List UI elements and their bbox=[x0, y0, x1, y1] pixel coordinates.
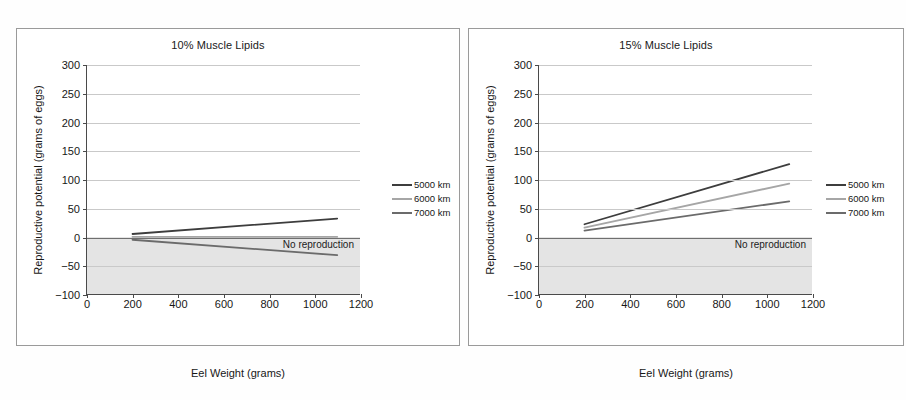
y-tick-mark-left-100 bbox=[83, 180, 87, 181]
y-tick-mark-right-200 bbox=[535, 123, 539, 124]
y-tick-label-left--100: −100 bbox=[55, 289, 80, 301]
gridline-right-200 bbox=[539, 123, 812, 124]
y-tick-mark-right-50 bbox=[535, 209, 539, 210]
x-tick-label-left-400: 400 bbox=[169, 298, 187, 310]
x-tick-label-right-1000: 1000 bbox=[755, 298, 779, 310]
y-tick-mark-right-100 bbox=[535, 180, 539, 181]
y-tick-label-left-300: 300 bbox=[62, 59, 80, 71]
gridline-left-150 bbox=[87, 151, 360, 152]
y-tick-mark-right-150 bbox=[535, 151, 539, 152]
y-axis-title-right-text: Reproductive potential (grams of eggs) bbox=[484, 85, 496, 275]
legend-swatch-icon-right-1 bbox=[826, 198, 846, 200]
legend-swatch-icon-right-0 bbox=[826, 184, 846, 186]
y-tick-mark-left-250 bbox=[83, 94, 87, 95]
y-tick-label-left-0: 0 bbox=[74, 232, 80, 244]
chart-title-left: 10% Muscle Lipids bbox=[17, 39, 459, 51]
x-axis-title-left: Eel Weight (grams) bbox=[17, 367, 459, 379]
gridline-left-50 bbox=[87, 209, 360, 210]
legend-label-left-1: 6000 km bbox=[414, 194, 450, 204]
y-tick-mark-right-300 bbox=[535, 65, 539, 66]
legend-item-right-6000-km[interactable]: 6000 km bbox=[826, 192, 884, 206]
y-tick-mark-left--50 bbox=[83, 266, 87, 267]
figure-page: 10% Muscle Lipids Reproductive potential… bbox=[0, 0, 906, 400]
legend-label-left-2: 7000 km bbox=[414, 208, 450, 218]
y-tick-label-left-250: 250 bbox=[62, 88, 80, 100]
y-tick-label-right-100: 100 bbox=[514, 174, 532, 186]
legend-swatch-icon-left-2 bbox=[392, 212, 412, 214]
y-axis-title-left: Reproductive potential (grams of eggs) bbox=[31, 65, 45, 295]
y-tick-label-left-50: 50 bbox=[68, 203, 80, 215]
series-line-left-5000-km bbox=[133, 219, 338, 234]
legend-left: 5000 km6000 km7000 km bbox=[392, 178, 450, 220]
gridline-right-150 bbox=[539, 151, 812, 152]
legend-swatch-icon-left-1 bbox=[392, 198, 412, 200]
y-tick-label-right-300: 300 bbox=[514, 59, 532, 71]
gridline-left-300 bbox=[87, 65, 360, 66]
y-tick-label-left-150: 150 bbox=[62, 145, 80, 157]
zero-line-right bbox=[539, 238, 812, 239]
x-axis-title-right: Eel Weight (grams) bbox=[469, 367, 903, 379]
y-tick-label-right--100: −100 bbox=[507, 289, 532, 301]
y-tick-label-right-50: 50 bbox=[520, 203, 532, 215]
x-tick-label-right-600: 600 bbox=[667, 298, 685, 310]
gridline-right-250 bbox=[539, 94, 812, 95]
x-tick-label-right-800: 800 bbox=[712, 298, 730, 310]
gridline-left-200 bbox=[87, 123, 360, 124]
y-tick-label-left--50: −50 bbox=[61, 260, 80, 272]
gridline-right-50 bbox=[539, 209, 812, 210]
gridline-right-300 bbox=[539, 65, 812, 66]
legend-label-right-0: 5000 km bbox=[848, 180, 884, 190]
y-axis-title-right: Reproductive potential (grams of eggs) bbox=[483, 65, 497, 295]
x-tick-label-left-1200: 1200 bbox=[349, 298, 373, 310]
plot-area-right: No reproduction −100−5005010015020025030… bbox=[538, 65, 812, 295]
legend-item-left-6000-km[interactable]: 6000 km bbox=[392, 192, 450, 206]
y-axis-title-left-text: Reproductive potential (grams of eggs) bbox=[32, 85, 44, 275]
y-tick-mark-left-300 bbox=[83, 65, 87, 66]
gridline-left-250 bbox=[87, 94, 360, 95]
series-line-left-7000-km bbox=[133, 240, 338, 255]
x-tick-label-left-600: 600 bbox=[215, 298, 233, 310]
legend-item-left-5000-km[interactable]: 5000 km bbox=[392, 178, 450, 192]
gridline-left-100 bbox=[87, 180, 360, 181]
x-tick-label-left-800: 800 bbox=[260, 298, 278, 310]
legend-label-right-2: 7000 km bbox=[848, 208, 884, 218]
y-tick-label-right-250: 250 bbox=[514, 88, 532, 100]
y-tick-label-left-100: 100 bbox=[62, 174, 80, 186]
legend-item-right-5000-km[interactable]: 5000 km bbox=[826, 178, 884, 192]
legend-swatch-icon-right-2 bbox=[826, 212, 846, 214]
x-tick-label-right-0: 0 bbox=[536, 298, 542, 310]
x-tick-label-left-1000: 1000 bbox=[303, 298, 327, 310]
y-tick-mark-left-50 bbox=[83, 209, 87, 210]
y-tick-label-right-200: 200 bbox=[514, 117, 532, 129]
zero-line-left bbox=[87, 238, 360, 239]
y-tick-mark-left-200 bbox=[83, 123, 87, 124]
legend-item-left-7000-km[interactable]: 7000 km bbox=[392, 206, 450, 220]
legend-right: 5000 km6000 km7000 km bbox=[826, 178, 884, 220]
y-tick-label-right-0: 0 bbox=[526, 232, 532, 244]
legend-item-right-7000-km[interactable]: 7000 km bbox=[826, 206, 884, 220]
y-tick-mark-right-250 bbox=[535, 94, 539, 95]
gridline-left--50 bbox=[87, 266, 360, 267]
legend-swatch-icon-left-0 bbox=[392, 184, 412, 186]
x-tick-label-left-200: 200 bbox=[123, 298, 141, 310]
x-tick-label-right-200: 200 bbox=[575, 298, 593, 310]
plot-area-left: No reproduction −100−5005010015020025030… bbox=[86, 65, 360, 295]
gridline-right-100 bbox=[539, 180, 812, 181]
y-tick-mark-right--50 bbox=[535, 266, 539, 267]
x-tick-label-right-1200: 1200 bbox=[801, 298, 825, 310]
y-tick-mark-left-150 bbox=[83, 151, 87, 152]
y-tick-mark-left-0 bbox=[83, 238, 87, 239]
y-tick-label-right-150: 150 bbox=[514, 145, 532, 157]
gridline-right--50 bbox=[539, 266, 812, 267]
legend-label-left-0: 5000 km bbox=[414, 180, 450, 190]
y-tick-label-left-200: 200 bbox=[62, 117, 80, 129]
y-tick-mark-right-0 bbox=[535, 238, 539, 239]
legend-label-right-1: 6000 km bbox=[848, 194, 884, 204]
x-tick-label-left-0: 0 bbox=[84, 298, 90, 310]
x-tick-label-right-400: 400 bbox=[621, 298, 639, 310]
y-tick-label-right--50: −50 bbox=[513, 260, 532, 272]
chart-title-right: 15% Muscle Lipids bbox=[469, 39, 903, 51]
